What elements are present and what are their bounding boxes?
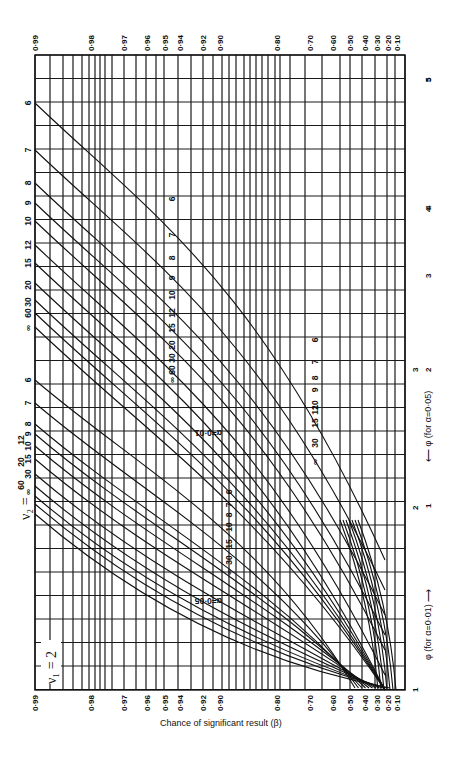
svg-text:3: 3 — [424, 273, 433, 278]
svg-text:0·60: 0·60 — [329, 34, 338, 51]
svg-text:3: 3 — [411, 367, 420, 372]
svg-text:30: 30 — [23, 297, 33, 307]
svg-text:0·99: 0·99 — [31, 34, 40, 51]
svg-text:0·70: 0·70 — [306, 694, 315, 711]
svg-text:8: 8 — [224, 512, 234, 517]
svg-text:0·50: 0·50 — [346, 34, 355, 51]
panel-label: ν₁ = 2 — [44, 651, 59, 684]
svg-text:6: 6 — [23, 100, 33, 105]
svg-text:∞: ∞ — [310, 459, 320, 465]
svg-text:9: 9 — [167, 275, 177, 280]
svg-text:0·98: 0·98 — [87, 34, 96, 51]
svg-text:0·98: 0·98 — [87, 694, 96, 711]
svg-text:0·70: 0·70 — [306, 34, 315, 51]
svg-text:0·90: 0·90 — [216, 34, 225, 51]
svg-text:0·40: 0·40 — [361, 694, 370, 711]
svg-text:60: 60 — [23, 308, 33, 318]
svg-text:0·94: 0·94 — [176, 34, 185, 51]
beta-ticks-top: 0·990·980·970·960·950·940·920·900·800·70… — [31, 34, 402, 51]
grid — [35, 55, 405, 690]
svg-text:0·97: 0·97 — [120, 34, 129, 51]
svg-text:∞: ∞ — [167, 377, 177, 383]
svg-text:0·92: 0·92 — [199, 694, 208, 711]
svg-text:1: 1 — [411, 687, 420, 692]
svg-text:0·95: 0·95 — [161, 694, 170, 711]
svg-text:10: 10 — [23, 216, 33, 226]
svg-text:0·92: 0·92 — [199, 34, 208, 51]
svg-text:0·97: 0·97 — [120, 694, 129, 711]
svg-text:12: 12 — [167, 308, 177, 318]
svg-text:12: 12 — [310, 405, 320, 415]
svg-text:0·20: 0·20 — [384, 34, 393, 51]
svg-text:0·50: 0·50 — [346, 694, 355, 711]
svg-text:4: 4 — [424, 207, 433, 212]
svg-text:0·40: 0·40 — [361, 34, 370, 51]
svg-text:0·80: 0·80 — [273, 34, 282, 51]
svg-text:9: 9 — [310, 387, 320, 392]
svg-text:0·10: 0·10 — [393, 694, 402, 711]
svg-text:30: 30 — [23, 469, 33, 479]
svg-text:15: 15 — [224, 539, 234, 549]
svg-text:20: 20 — [23, 280, 33, 290]
svg-text:12: 12 — [23, 240, 33, 250]
svg-text:60: 60 — [167, 365, 177, 375]
svg-text:∞: ∞ — [23, 489, 33, 495]
svg-text:9: 9 — [23, 200, 33, 205]
svg-text:30: 30 — [167, 353, 177, 363]
svg-text:7: 7 — [310, 359, 320, 364]
power-chart: 0·990·980·970·960·950·940·920·900·800·70… — [0, 0, 455, 757]
svg-text:8: 8 — [23, 421, 33, 426]
beta-axis-title: Chance of significant result (β) — [160, 718, 282, 728]
svg-text:∞: ∞ — [23, 325, 33, 331]
svg-text:60: 60 — [16, 480, 26, 490]
nu2-labels-left-005: 6789101215203060∞ — [16, 377, 33, 495]
svg-text:7: 7 — [224, 502, 234, 507]
svg-text:8: 8 — [23, 180, 33, 185]
svg-text:10: 10 — [224, 522, 234, 532]
svg-text:8: 8 — [167, 255, 177, 260]
svg-text:20: 20 — [167, 340, 177, 350]
svg-text:7: 7 — [23, 147, 33, 152]
svg-text:0·95: 0·95 — [161, 34, 170, 51]
svg-text:∞: ∞ — [224, 569, 234, 575]
svg-text:15: 15 — [310, 418, 320, 428]
svg-text:20: 20 — [16, 457, 26, 467]
svg-text:12: 12 — [16, 435, 26, 445]
svg-text:0·94: 0·94 — [176, 694, 185, 711]
svg-text:7: 7 — [23, 400, 33, 405]
svg-text:6: 6 — [167, 196, 177, 201]
svg-text:8: 8 — [310, 375, 320, 380]
svg-text:6: 6 — [23, 377, 33, 382]
svg-text:0·60: 0·60 — [329, 694, 338, 711]
svg-text:10: 10 — [167, 290, 177, 300]
svg-text:0·96: 0·96 — [143, 694, 152, 711]
svg-text:1: 1 — [424, 503, 433, 508]
svg-text:0·20: 0·20 — [384, 694, 393, 711]
svg-text:15: 15 — [23, 258, 33, 268]
svg-text:0·96: 0·96 — [143, 34, 152, 51]
svg-text:0·99: 0·99 — [31, 694, 40, 711]
svg-text:0·90: 0·90 — [216, 694, 225, 711]
svg-text:15: 15 — [167, 323, 177, 333]
svg-text:7: 7 — [167, 232, 177, 237]
svg-text:2: 2 — [424, 367, 433, 372]
svg-text:0·30: 0·30 — [373, 34, 382, 51]
nu2-axis-label: ν₂ = — [18, 497, 33, 520]
svg-text:30: 30 — [310, 438, 320, 448]
alpha-001-label: α=0·01 — [195, 428, 222, 438]
phi-axis-title-005: ⟵ φ (for α=0·05) — [423, 391, 433, 462]
alpha-005-label: α=0·05 — [195, 596, 222, 606]
beta-ticks-bottom: 0·990·980·970·960·950·940·920·900·800·70… — [31, 694, 402, 711]
nu2-labels-left-001: 6789101215203060∞ — [23, 100, 33, 331]
svg-text:0·80: 0·80 — [273, 694, 282, 711]
svg-text:0·30: 0·30 — [373, 694, 382, 711]
phi-axis-title-001: φ (for α=0·01) ⟶ — [423, 589, 433, 660]
svg-text:2: 2 — [411, 505, 420, 510]
svg-text:6: 6 — [310, 337, 320, 342]
svg-text:30: 30 — [224, 555, 234, 565]
svg-text:0·10: 0·10 — [393, 34, 402, 51]
svg-text:5: 5 — [424, 77, 433, 82]
svg-text:6: 6 — [224, 489, 234, 494]
